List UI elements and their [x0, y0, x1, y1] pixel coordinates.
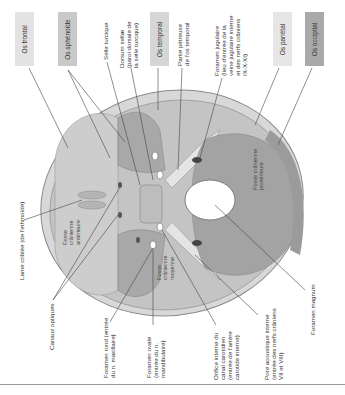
carotid-orifice-lower	[157, 223, 163, 231]
label-os-sphenoide: Os sphénoïde	[64, 19, 71, 59]
jugular-foramen-upper	[192, 157, 202, 163]
foramen-rotundum-lower	[150, 241, 156, 249]
optic-canal-lower	[118, 212, 122, 218]
bottom-separator-line	[0, 384, 345, 385]
leader-os-occipital	[278, 68, 312, 145]
foramen-rotundum-upper	[152, 152, 158, 160]
label-box-os-sphenoide: Os sphénoïde	[58, 12, 77, 66]
label-pore-acoustique: Pore acoustique interne (entrée des nerf…	[263, 308, 284, 380]
label-fosse-moyenne: Fosse crânienne moyenne	[156, 255, 175, 280]
leader-os-parietal	[255, 68, 279, 125]
label-box-os-occipital: Os occipital	[305, 12, 324, 66]
cribriform-plate-lower	[78, 201, 106, 209]
label-foramen-rond: Foramen rond (entrée du n. maxillaire)	[102, 318, 116, 378]
jugular-foramen-lower	[192, 240, 202, 246]
label-foramen-magnum: Foramen magnum	[309, 284, 316, 335]
label-os-occipital: Os occipital	[311, 22, 318, 56]
label-partie-petreuse: Partie pétreuse de l'os temporal	[176, 23, 190, 67]
skull-base-diagram: Os frontal Os sphénoïde Os temporal Os p…	[0, 0, 345, 395]
label-os-temporal: Os temporal	[156, 21, 163, 56]
foramen-magnum-shape	[185, 180, 235, 220]
label-box-os-frontal: Os frontal	[15, 12, 34, 66]
label-fosse-anterieure: Fosse crânienne antérieure	[62, 220, 81, 245]
label-canaux-optiques: Canaux optiques	[48, 304, 55, 350]
label-foramen-jugulaire: Foramen jugulaire (lieu d'entrée de la v…	[213, 15, 248, 76]
label-dorsum-sellae: Dorsum sellæ (paroi dorsale de la selle …	[118, 22, 139, 68]
label-lame-criblee: Lame criblée (de l'ethmoïde)	[18, 202, 25, 280]
carotid-orifice-upper	[157, 171, 163, 179]
label-box-os-parietal: Os pariétal	[273, 12, 292, 66]
sella-turcica	[140, 185, 162, 223]
label-os-frontal: Os frontal	[21, 25, 28, 53]
foramen-ovale-shape	[136, 237, 140, 243]
label-selle-turcique: Selle turcique	[102, 23, 109, 61]
leader-os-frontal	[29, 68, 68, 148]
cribriform-plate-upper	[78, 191, 106, 199]
label-box-os-temporal: Os temporal	[150, 12, 169, 66]
label-orifice-carotidien: Orifice interne du canal carotidien (ent…	[212, 331, 240, 380]
label-foramen-ovale: Foramen ovale (entrée du n. mandibulaire…	[145, 337, 166, 378]
label-os-parietal: Os pariétal	[279, 23, 286, 54]
label-fosse-posterieure: Fosse crânienne postérieure	[252, 149, 265, 190]
